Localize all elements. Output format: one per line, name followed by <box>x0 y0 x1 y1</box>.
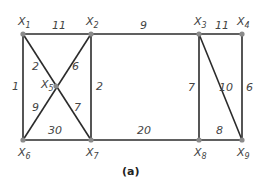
node-label-x5: X5 <box>40 78 54 93</box>
node-label-x6: X6 <box>17 146 31 161</box>
node-label-x9: X9 <box>236 146 250 161</box>
node-label-x3: X3 <box>193 15 207 30</box>
weight-x4-x9: 6 <box>246 81 253 94</box>
node-x1 <box>20 31 25 36</box>
weight-x7-x8: 20 <box>137 124 151 137</box>
weight-x1-x5: 2 <box>32 60 39 73</box>
node-x7 <box>88 137 93 142</box>
node-x6 <box>20 137 25 142</box>
node-labels: X1 X2 X3 X4 X5 X6 X7 X8 X9 <box>17 15 250 161</box>
weight-x2-x3: 9 <box>140 19 147 32</box>
node-label-x8: X8 <box>193 146 207 161</box>
weight-x5-x6: 9 <box>32 101 39 114</box>
weight-x1-x2: 11 <box>52 19 66 32</box>
weight-x1-x6: 1 <box>12 80 19 93</box>
node-label-x4: X4 <box>236 15 250 30</box>
node-x3 <box>196 31 201 36</box>
weight-x3-x8: 7 <box>188 81 195 94</box>
figure-caption: (a) <box>122 165 139 178</box>
node-label-x1: X1 <box>17 15 31 30</box>
node-x9 <box>239 137 244 142</box>
weight-x6-x7: 30 <box>48 124 62 137</box>
node-x2 <box>88 31 93 36</box>
weight-x8-x9: 8 <box>216 124 223 137</box>
weight-x3-x9: 10 <box>219 81 233 94</box>
weight-x5-x7: 7 <box>74 101 81 114</box>
weight-x2-x7: 2 <box>96 80 103 93</box>
node-x8 <box>196 137 201 142</box>
weight-x3-x4: 11 <box>215 19 229 32</box>
weight-x2-x5: 6 <box>72 60 79 73</box>
node-x4 <box>239 31 244 36</box>
graph-diagram: X1 X2 X3 X4 X5 X6 X7 X8 X9 11 9 11 1 2 6… <box>0 0 265 189</box>
node-x5 <box>53 83 58 88</box>
node-label-x7: X7 <box>85 146 100 161</box>
node-label-x2: X2 <box>85 15 99 30</box>
